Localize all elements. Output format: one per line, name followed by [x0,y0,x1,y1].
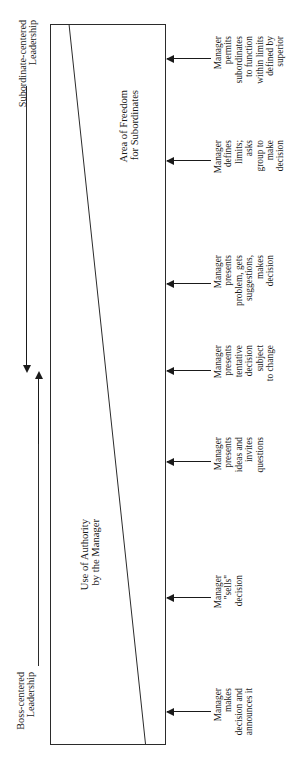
step-3-line-3: ideas and [235,437,244,472]
pole-label-subordinate-line2: Leadership [28,20,38,65]
step-7-line-4: to function [245,36,254,77]
step-5-line-2: presents [224,255,233,286]
step-label-4: Managerpresentstentativedecisionsubjectt… [214,345,276,381]
region-freedom-line1: Area of Freedom [119,90,130,162]
step-6-line-7: decision [276,140,285,171]
step-arrow-3 [167,461,211,462]
pole-label-subordinate-centered: Subordinate-centered Leadership [18,20,38,107]
box-right-edge [165,24,166,745]
step-5-line-1: Manager [214,255,223,288]
step-label-2: Manager"sells"decision [214,575,245,608]
step-6-line-5: group to [256,140,265,172]
step-6-line-6: make [266,140,275,160]
arrow-up-boss [38,378,39,444]
box-top-edge [50,24,166,25]
step-label-3: Managerpresentsideas andinvitesquestions [214,437,266,472]
step-7-line-5: within limits [256,36,265,84]
step-6-line-3: limits; [235,140,244,164]
step-2-line-3: decision [235,575,244,606]
step-label-1: Managermakesdecision andannounces it [214,688,256,735]
region-authority-line1: Use of Authority [80,519,91,590]
step-label-6: Managerdefineslimits;asksgroup tomakedec… [214,140,287,173]
pole-label-boss-centered: Boss-centered Leadership [16,672,36,730]
step-4-line-1: Manager [214,345,223,378]
step-1-line-2: makes [224,688,233,712]
step-1-line-1: Manager [214,688,223,721]
region-freedom-line2: for Subordinates [130,90,141,160]
region-label-area-of-freedom: Area of Freedom for Subordinates [119,90,140,162]
step-arrow-5 [167,283,211,284]
step-arrow-1 [167,711,211,712]
box-left-edge [50,24,51,745]
step-2-line-2: "sells" [224,575,233,599]
step-arrow-2 [167,597,211,598]
pole-label-boss-line2: Leadership [26,672,36,717]
step-5-line-6: decision [266,255,275,286]
step-1-line-3: decision and [235,688,244,735]
step-6-line-2: defines [224,140,233,167]
step-arrow-7 [167,58,211,59]
step-2-line-1: Manager [214,575,223,608]
step-4-line-5: subject [256,345,265,372]
step-4-line-6: to change [266,345,275,381]
step-3-line-2: presents [224,437,233,468]
arrow-down-subordinate [26,300,27,366]
region-label-use-of-authority: Use of Authority by the Manager [80,519,101,590]
step-7-line-6: defined by [266,36,275,76]
step-5-line-3: problem, gets [235,255,244,306]
step-label-7: Managerpermitssubordinatesto functionwit… [214,36,287,84]
step-3-line-1: Manager [214,437,223,470]
step-4-line-2: presents [224,345,233,376]
step-5-line-4: suggestions, [245,255,254,301]
step-1-line-4: announces it [245,688,254,735]
step-6-line-4: asks [245,140,254,156]
step-5-line-5: makes [256,255,265,279]
step-3-line-4: invites [245,437,254,462]
step-7-line-1: Manager [214,36,223,69]
step-4-line-4: decision [245,345,254,376]
region-authority-line2: by the Manager [91,519,102,585]
step-label-5: Managerpresentsproblem, getssuggestions,… [214,255,276,306]
step-4-line-3: tentative [235,345,244,377]
step-arrow-4 [167,370,211,371]
diagonal-divider [0,0,296,781]
step-7-line-2: permits [224,36,233,64]
step-6-line-1: Manager [214,140,223,173]
step-7-line-7: superior [276,36,285,67]
step-7-line-3: subordinates [235,36,244,83]
step-arrow-6 [167,160,211,161]
box-bottom-edge [50,744,166,745]
step-3-line-5: questions [256,437,265,472]
leadership-continuum-diagram: Subordinate-centered Leadership Boss-cen… [0,0,296,781]
